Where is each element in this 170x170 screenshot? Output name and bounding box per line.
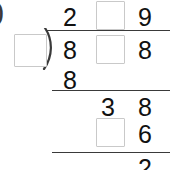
work-row-second-subtrahend-blank[interactable] <box>96 118 125 147</box>
dividend-blank-tens[interactable] <box>96 35 125 64</box>
edge-paren-glyph: ) <box>0 0 4 26</box>
divisor-blank[interactable] <box>14 34 47 67</box>
division-bar <box>47 30 170 31</box>
work-row-first-remainder-ones: 8 <box>133 95 157 120</box>
dividend-digit-hundreds: 8 <box>58 38 82 63</box>
work-row-second-subtrahend-ones: 6 <box>133 122 157 147</box>
quotient-blank-tens[interactable] <box>96 1 125 30</box>
quotient-digit-ones: 9 <box>133 5 157 30</box>
work-row-first-remainder-tens: 3 <box>96 95 120 120</box>
quotient-digit-hundreds: 2 <box>58 5 82 30</box>
subtraction-rule-2 <box>52 152 170 153</box>
long-division-worksheet: ) 2 9 8 8 8 3 8 6 2 <box>0 0 170 170</box>
subtraction-rule-1 <box>52 90 170 91</box>
work-row-final-remainder: 2 <box>133 156 157 170</box>
dividend-digit-ones: 8 <box>133 38 157 63</box>
